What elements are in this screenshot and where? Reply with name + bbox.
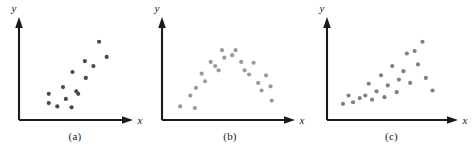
scatterplot-figure: y x (a) y x (b): [0, 0, 473, 159]
scatter-point: [351, 100, 355, 104]
scatter-point: [97, 40, 101, 44]
panel-a-x-axis-label: x: [137, 114, 143, 126]
scatter-point: [194, 86, 198, 90]
scatter-point: [84, 76, 88, 80]
panel-c-caption: (c): [310, 130, 473, 142]
panel-b-points: [178, 48, 274, 110]
scatter-point: [233, 48, 237, 52]
panel-b: y x (b): [150, 0, 310, 159]
scatter-point: [91, 64, 95, 68]
scatter-point: [346, 93, 350, 97]
scatter-point: [216, 68, 220, 72]
scatter-point: [47, 92, 51, 96]
scatter-point: [264, 73, 268, 77]
scatter-point: [247, 72, 251, 76]
scatter-point: [430, 88, 434, 92]
scatter-point: [213, 64, 217, 68]
scatter-point: [420, 40, 424, 44]
scatter-point: [222, 56, 226, 60]
scatter-point: [408, 81, 412, 85]
panel-c: y x (c): [310, 0, 473, 159]
scatter-point: [61, 85, 65, 89]
scatter-point: [374, 89, 378, 93]
x-axis-arrowhead: [122, 116, 133, 124]
panel-a-points: [47, 40, 109, 110]
panel-b-x-axis-label: x: [299, 114, 305, 126]
scatter-point: [363, 93, 367, 97]
scatter-point: [256, 81, 260, 85]
y-axis-arrowhead: [158, 17, 166, 28]
scatter-point: [70, 70, 74, 74]
scatter-point: [64, 97, 68, 101]
scatter-point: [379, 73, 383, 77]
panel-c-plot: y x: [310, 0, 473, 140]
panel-a-caption: (a): [0, 130, 150, 142]
panel-c-y-axis-label: y: [319, 2, 325, 14]
scatter-point: [401, 69, 405, 73]
scatter-point: [193, 106, 197, 110]
scatter-point: [230, 53, 234, 57]
scatter-point: [242, 68, 246, 72]
scatter-point: [203, 79, 207, 83]
y-axis-arrowhead: [15, 17, 23, 28]
scatter-point: [47, 101, 51, 105]
scatter-point: [200, 72, 204, 76]
scatter-point: [358, 96, 362, 100]
scatter-point: [416, 62, 420, 66]
scatter-point: [424, 76, 428, 80]
scatter-point: [259, 88, 263, 92]
scatter-point: [220, 48, 224, 52]
scatter-point: [55, 104, 59, 108]
scatter-point: [370, 98, 374, 102]
panel-c-x-axis-label: x: [462, 114, 468, 126]
scatter-point: [178, 104, 182, 108]
scatter-point: [395, 90, 399, 94]
scatter-point: [83, 59, 87, 63]
panel-a-y-axis-label: y: [11, 2, 17, 14]
scatter-point: [341, 102, 345, 106]
scatter-point: [413, 49, 417, 53]
scatter-point: [69, 105, 73, 109]
scatter-point: [268, 84, 272, 88]
scatter-point: [188, 93, 192, 97]
panel-a-axes: [15, 17, 133, 124]
panel-c-axes: [323, 17, 458, 124]
panel-b-plot: y x: [150, 0, 310, 140]
y-axis-arrowhead: [323, 17, 331, 28]
scatter-point: [405, 51, 409, 55]
panel-a: y x (a): [0, 0, 150, 159]
scatter-point: [367, 82, 371, 86]
scatter-point: [252, 61, 256, 65]
scatter-point: [382, 95, 386, 99]
scatter-point: [270, 98, 274, 102]
panel-b-y-axis-label: y: [154, 2, 160, 14]
scatter-point: [209, 60, 213, 64]
panel-a-plot: y x: [0, 0, 150, 140]
scatter-point: [105, 55, 109, 59]
scatter-point: [76, 92, 80, 96]
panel-c-points: [341, 40, 435, 106]
x-axis-arrowhead: [284, 116, 295, 124]
scatter-point: [386, 83, 390, 87]
panel-b-caption: (b): [150, 130, 310, 142]
scatter-point: [397, 77, 401, 81]
scatter-point: [390, 64, 394, 68]
scatter-point: [239, 60, 243, 64]
x-axis-arrowhead: [447, 116, 458, 124]
